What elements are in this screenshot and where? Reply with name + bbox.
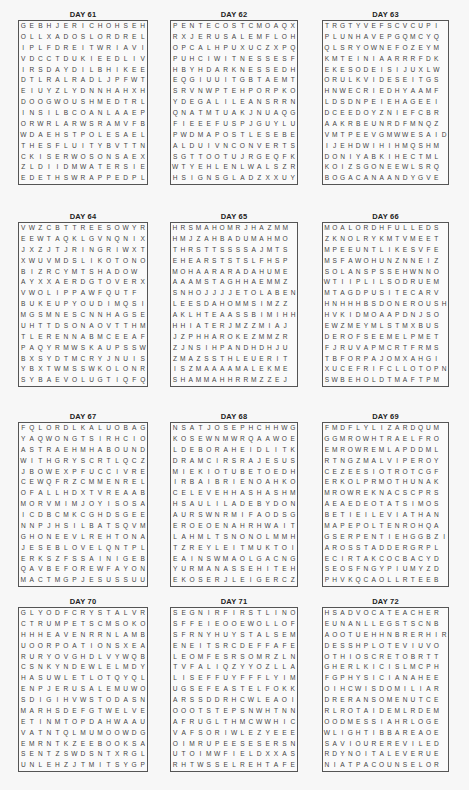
grid-letter: U <box>70 97 79 108</box>
grid-letter: O <box>188 706 196 717</box>
grid-letter: A <box>87 423 96 434</box>
grid-letter: S <box>121 162 130 173</box>
grid-letter: F <box>263 641 271 652</box>
grid-letter: C <box>378 662 386 673</box>
grid-letter: S <box>346 64 354 75</box>
grid-letter: M <box>266 299 274 310</box>
grid-letter: J <box>188 32 196 43</box>
grid-letter: P <box>130 173 139 184</box>
grid-letter: A <box>138 532 147 543</box>
grid-letter: E <box>247 64 255 75</box>
grid-letter: A <box>362 343 370 354</box>
grid-letter: T <box>203 321 211 332</box>
grid-letter: W <box>28 288 37 299</box>
grid-letter: H <box>401 532 409 543</box>
grid-letter: G <box>130 760 139 771</box>
grid-letter: E <box>121 332 130 343</box>
grid-letter: S <box>401 488 409 499</box>
grid-letter: M <box>323 521 331 532</box>
grid-letter: O <box>36 532 45 543</box>
grid-letter: M <box>234 364 242 375</box>
grid-letter: J <box>45 521 54 532</box>
grid-letter: N <box>70 332 79 343</box>
grid-letter: N <box>179 108 187 119</box>
grid-letter: H <box>255 488 263 499</box>
grid-letter <box>440 543 448 554</box>
grid-letter: D <box>113 266 122 277</box>
grid-letter: G <box>196 173 204 184</box>
grid-letter: U <box>230 43 238 54</box>
grid-letter: M <box>323 223 331 234</box>
grid-letter: A <box>272 641 280 652</box>
grid-letter: Z <box>36 266 45 277</box>
grid-letter: Y <box>425 553 433 564</box>
grid-letter: I <box>289 695 297 706</box>
grid-letter: A <box>386 173 394 184</box>
grid-letter: E <box>339 141 347 152</box>
grid-letter: S <box>432 321 440 332</box>
grid-letter: S <box>323 266 331 277</box>
grid-letter: S <box>230 21 238 32</box>
grid-letter: T <box>280 445 288 456</box>
grid-letter: H <box>289 564 297 575</box>
grid-letter: C <box>409 488 417 499</box>
grid-letter: T <box>386 375 394 386</box>
grid-letter: H <box>331 662 339 673</box>
grid-letter: E <box>188 119 196 130</box>
letter-grid: FQLORDLKALUOBAGYAQWONGTSIRHCIOASTRAEHMHA… <box>18 422 148 587</box>
grid-letter: F <box>53 477 62 488</box>
grid-letter: E <box>45 630 54 641</box>
grid-letter: O <box>19 119 28 130</box>
grid-letter: O <box>36 288 45 299</box>
grid-letter: E <box>272 75 280 86</box>
grid-letter: O <box>281 234 289 245</box>
grid-letter: D <box>238 499 246 510</box>
grid-letter: Q <box>121 456 130 467</box>
grid-letter: A <box>87 173 96 184</box>
grid-letter: A <box>221 445 229 456</box>
grid-letter: H <box>417 353 425 364</box>
grid-letter: R <box>432 608 440 619</box>
grid-letter: E <box>36 173 45 184</box>
grid-letter: T <box>45 173 54 184</box>
grid-letter: I <box>386 151 394 162</box>
grid-letter: E <box>247 32 255 43</box>
grid-letter: V <box>432 288 440 299</box>
grid-letter: T <box>53 245 62 256</box>
grid-letter: C <box>53 266 62 277</box>
grid-letter: H <box>210 234 218 245</box>
grid-letter: E <box>79 738 88 749</box>
grid-letter: Z <box>255 173 263 184</box>
grid-letter: T <box>104 760 113 771</box>
grid-letter: B <box>362 299 370 310</box>
grid-letter: I <box>386 288 394 299</box>
grid-letter: S <box>432 223 440 234</box>
grid-letter: F <box>378 364 386 375</box>
grid-letter: E <box>425 706 433 717</box>
grid-letter: Q <box>121 521 130 532</box>
grid-letter: J <box>247 108 255 119</box>
grid-letter: T <box>393 477 401 488</box>
grid-letter: S <box>234 310 242 321</box>
grid-letter: A <box>28 706 37 717</box>
grid-letter: N <box>96 86 105 97</box>
grid-letter: L <box>362 277 370 288</box>
grid-letter: G <box>188 608 196 619</box>
grid-letter: D <box>28 130 37 141</box>
grid-letter: O <box>280 619 288 630</box>
grid-letter: G <box>205 717 213 728</box>
grid-letter: T <box>362 728 370 739</box>
grid-letter: O <box>386 477 394 488</box>
grid-letter: N <box>401 695 409 706</box>
grid-letter: L <box>62 543 71 554</box>
grid-letter: E <box>188 445 196 456</box>
grid-letter: R <box>36 499 45 510</box>
grid-letter: O <box>218 223 226 234</box>
grid-letter: I <box>205 477 213 488</box>
grid-letter: E <box>362 499 370 510</box>
grid-letter: E <box>70 619 79 630</box>
grid-letter: D <box>62 32 71 43</box>
grid-letter: O <box>339 543 347 554</box>
grid-letter: F <box>62 553 71 564</box>
grid-letter: U <box>221 673 229 684</box>
